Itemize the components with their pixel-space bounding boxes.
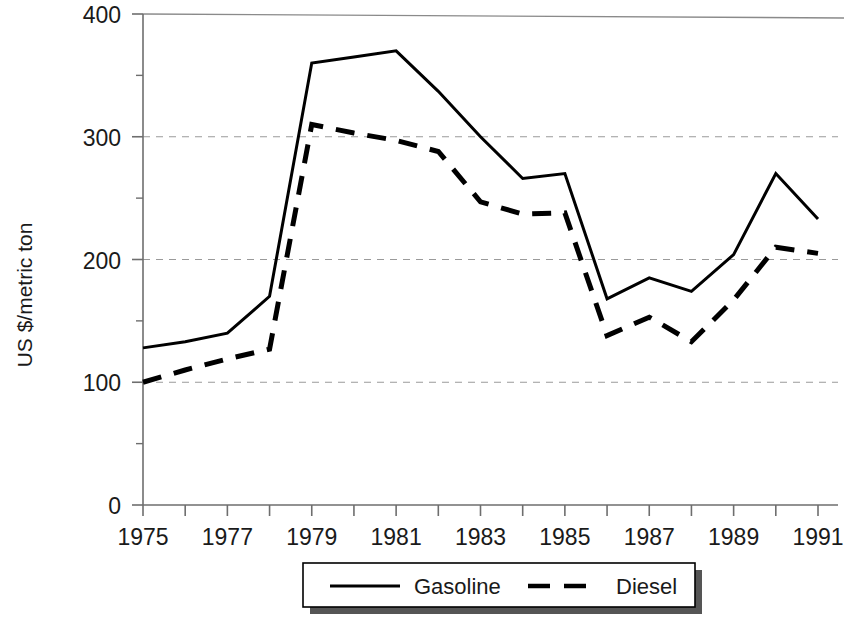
x-tick-label-1981: 1981 <box>371 524 422 550</box>
y-axis-title: US $/metric ton <box>13 223 36 368</box>
x-tick-label-1987: 1987 <box>624 524 675 550</box>
x-tick-label-1989: 1989 <box>708 524 759 550</box>
x-tick-label-1977: 1977 <box>202 524 253 550</box>
gridlines-group <box>143 137 838 383</box>
y-tick-label-0: 0 <box>108 493 121 519</box>
y-tick-label-400: 400 <box>83 2 121 28</box>
series-line-diesel <box>143 124 818 382</box>
line-chart: 0100200300400 19751977197919811983198519… <box>0 0 844 619</box>
x-axis-ticks: 197519771979198119831985198719891991 <box>117 505 843 550</box>
chart-figure: 0100200300400 19751977197919811983198519… <box>0 0 844 619</box>
legend-label-diesel: Diesel <box>616 574 677 599</box>
y-tick-label-200: 200 <box>83 248 121 274</box>
x-tick-label-1991: 1991 <box>792 524 843 550</box>
data-series-group <box>143 51 818 382</box>
legend: Gasoline Diesel <box>303 563 702 614</box>
y-tick-label-100: 100 <box>83 370 121 396</box>
x-tick-label-1985: 1985 <box>539 524 590 550</box>
top-border-rule <box>143 14 844 18</box>
y-tick-label-300: 300 <box>83 125 121 151</box>
y-axis-ticks: 0100200300400 <box>83 2 143 519</box>
legend-label-gasoline: Gasoline <box>414 574 501 599</box>
x-tick-label-1975: 1975 <box>117 524 168 550</box>
x-tick-label-1979: 1979 <box>286 524 337 550</box>
x-tick-label-1983: 1983 <box>455 524 506 550</box>
